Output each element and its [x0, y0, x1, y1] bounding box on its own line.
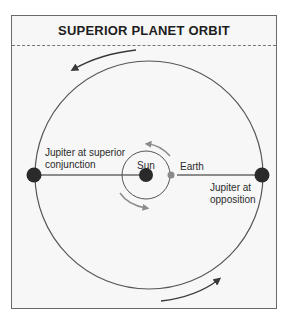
orbit-arrow-bottom-icon [161, 280, 218, 301]
earth-label: Earth [180, 161, 204, 173]
jupiter-conjunction-label-line1: Jupiter at superior [45, 147, 125, 159]
jupiter-conjunction-icon [27, 168, 42, 183]
jupiter-opposition-icon [255, 168, 270, 183]
sun-label: Sun [137, 160, 155, 172]
jupiter-conjunction-label-line2: conjunction [45, 159, 125, 171]
earth-arrow-top-icon [148, 144, 170, 156]
jupiter-opposition-label-line2: opposition [210, 194, 256, 206]
jupiter-opposition-label-line1: Jupiter at [210, 182, 256, 194]
jupiter-conjunction-label: Jupiter at superior conjunction [45, 147, 125, 171]
jupiter-opposition-label: Jupiter at opposition [210, 182, 256, 206]
orbit-arrow-top-icon [74, 50, 136, 69]
earth-icon [168, 172, 175, 179]
